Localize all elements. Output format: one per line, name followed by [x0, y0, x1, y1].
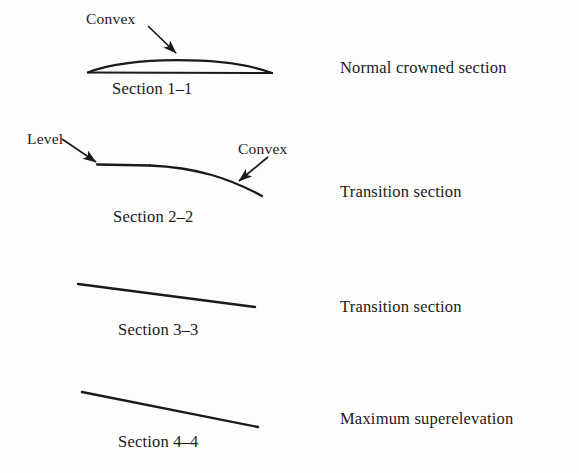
caption-section-1: Section 1–1 [112, 81, 193, 98]
section-3-profile [78, 284, 255, 307]
annotation-convex-section-2: Convex [238, 141, 287, 157]
section-1-profile [88, 60, 272, 73]
caption-section-2: Section 2–2 [113, 209, 194, 226]
description-section-3: Transition section [340, 299, 462, 316]
section-4-profile [82, 392, 258, 427]
level-arrow-section-2 [62, 139, 96, 162]
superelevation-figure: Convex Level Convex Section 1–1 Section … [0, 0, 579, 473]
description-section-1: Normal crowned section [340, 60, 507, 77]
convex-arrow-section-2 [239, 157, 268, 181]
annotation-level-section-2: Level [27, 131, 63, 147]
description-section-4: Maximum superelevation [340, 411, 514, 428]
caption-section-4: Section 4–4 [118, 434, 199, 451]
annotation-convex-section-1: Convex [86, 11, 135, 27]
description-section-2: Transition section [340, 184, 462, 201]
convex-arrow-section-1 [148, 26, 176, 53]
caption-section-3: Section 3–3 [118, 322, 199, 339]
section-2-profile [97, 165, 262, 197]
